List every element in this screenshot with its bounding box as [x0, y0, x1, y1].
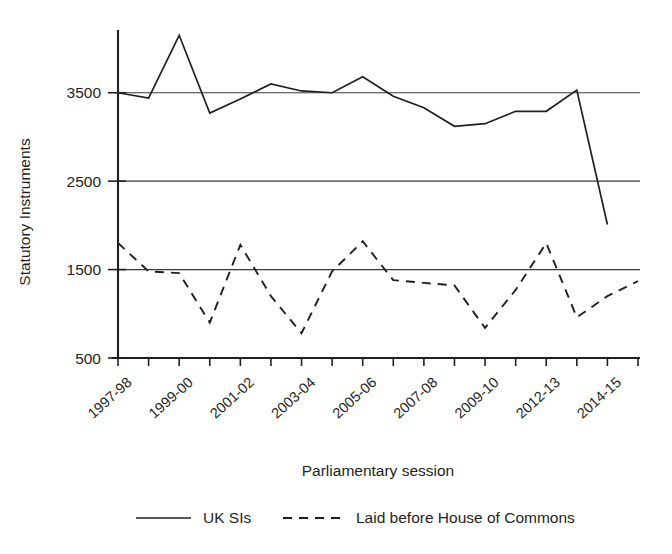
x-tick-label: 2014-15: [574, 374, 624, 422]
chart-legend: UK SIs Laid before House of Commons: [136, 509, 575, 526]
y-axis-title: Statutory Instruments: [16, 138, 33, 286]
x-tick-label: 1999-00: [146, 374, 196, 422]
x-tick-label: 2003-04: [268, 374, 318, 422]
x-tick-label: 2001-02: [207, 374, 257, 422]
legend-label-uk-sis: UK SIs: [203, 509, 251, 526]
y-tick-label: 1500: [67, 261, 102, 278]
line-chart: 500150025003500 1997-981999-002001-02200…: [0, 0, 672, 554]
y-tick-label: 2500: [67, 173, 102, 190]
series-line-uk-sis: [118, 35, 607, 224]
x-axis-tick-labels: 1997-981999-002001-022003-042005-062007-…: [84, 374, 624, 422]
legend-label-laid-before-house-of-commons: Laid before House of Commons: [356, 509, 575, 526]
series-line-laid-before-house-of-commons: [118, 241, 638, 333]
x-tick-label: 2009-10: [452, 374, 502, 422]
y-tick-label: 3500: [67, 84, 102, 101]
x-tick-label: 2012-13: [513, 374, 563, 422]
x-tick-label: 1997-98: [84, 374, 134, 422]
x-tick-label: 2005-06: [329, 374, 379, 422]
y-tick-label: 500: [75, 350, 101, 367]
gridlines: [118, 93, 640, 270]
x-axis-ticks: [118, 358, 638, 366]
x-tick-label: 2007-08: [390, 374, 440, 422]
x-axis-title: Parliamentary session: [302, 462, 454, 479]
